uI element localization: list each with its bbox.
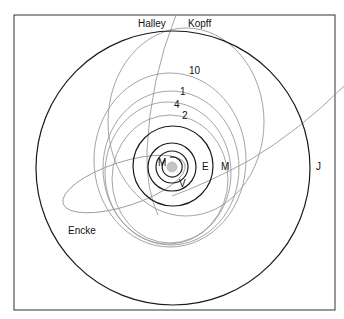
label-mars: M	[221, 161, 229, 172]
sun-icon	[167, 162, 177, 172]
orbit-halley-return	[172, 86, 344, 196]
label-comet-4: 4	[174, 99, 180, 110]
orbit-encke	[56, 143, 191, 224]
label-halley: Halley	[138, 18, 166, 29]
label-encke: Encke	[68, 225, 96, 236]
label-venus: V	[179, 178, 186, 189]
label-kopff: Kopff	[188, 18, 211, 29]
label-comet-1: 1	[180, 86, 186, 97]
label-comet-10: 10	[189, 65, 201, 76]
label-mercury: M	[158, 157, 166, 168]
orbit-comet-10	[94, 73, 246, 247]
label-jupiter: J	[316, 161, 321, 172]
orbit-diagram: Halley Kopff 10 1 4 2 Encke M V E M J	[0, 0, 344, 319]
label-comet-2: 2	[182, 110, 188, 121]
label-earth: E	[202, 161, 209, 172]
orbit-kopff	[108, 28, 264, 216]
